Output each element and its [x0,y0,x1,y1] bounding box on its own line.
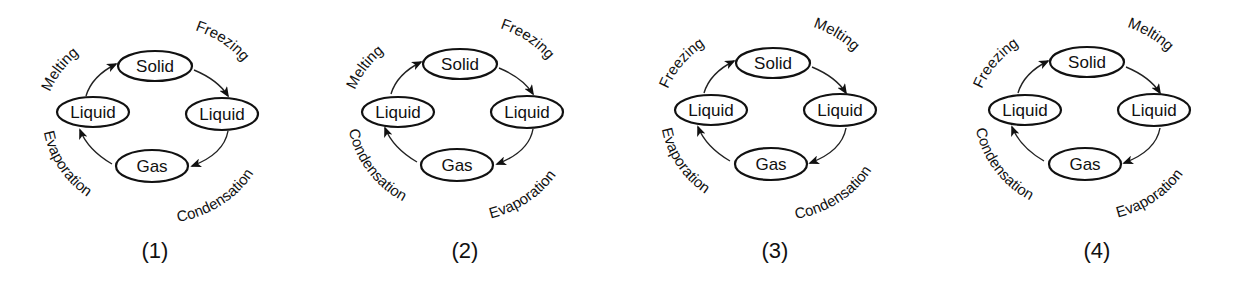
phase-change-diagrams: Solid Liquid Liquid Gas Melting Freezing… [0,0,1240,287]
state-liquid-right: Liquid [491,96,563,128]
process-label-bottom-right: Evaporation [487,166,559,221]
process-label-bottom-left: Condensation [973,126,1037,203]
state-gas: Gas [421,149,493,181]
state-liquid-left-label: Liquid [688,101,733,120]
arrow-liquid-to-gas [192,131,228,166]
process-label-bottom-right: Condensation [793,162,874,222]
arrow-liquid-to-gas [810,128,846,163]
state-liquid-right-label: Liquid [504,103,549,122]
arrow-liquid-to-solid [704,61,734,93]
arrow-solid-to-liquid [1126,67,1160,93]
option-label: (3) [762,238,789,263]
state-gas: Gas [116,150,188,182]
state-solid: Solid [1050,47,1124,77]
diagram-4: Solid Liquid Liquid Gas Freezing Melting… [969,14,1190,263]
state-gas-label: Gas [136,157,167,176]
arrow-gas-to-liquid [385,128,417,162]
arrow-gas-to-liquid [80,130,112,164]
state-solid-label: Solid [441,55,479,74]
arrow-liquid-to-solid [391,62,421,94]
state-solid: Solid [118,51,192,81]
state-solid-label: Solid [136,57,174,76]
process-label-top-left: Freezing [655,34,707,91]
arrow-gas-to-liquid [1012,127,1044,161]
arrow-liquid-to-solid [86,64,116,96]
process-label-top-left: Freezing [969,34,1021,91]
state-liquid-left-label: Liquid [375,103,420,122]
process-label-top-right: Freezing [194,17,254,64]
process-label-bottom-left: Evaporation [659,126,714,197]
state-liquid-left-label: Liquid [70,103,115,122]
state-solid: Solid [423,49,497,79]
state-solid-label: Solid [754,54,792,73]
arrow-liquid-to-gas [1124,128,1160,163]
diagram-1: Solid Liquid Liquid Gas Melting Freezing… [37,17,258,263]
arrow-gas-to-liquid [698,127,730,161]
process-label-top-right: Freezing [499,15,559,62]
arrow-liquid-to-solid [1018,61,1048,93]
state-liquid-right-label: Liquid [199,105,244,124]
state-liquid-right: Liquid [804,94,876,126]
state-liquid-left: Liquid [989,95,1061,125]
state-gas: Gas [735,148,807,180]
option-label: (1) [142,238,169,263]
state-liquid-right: Liquid [1118,94,1190,126]
state-liquid-left: Liquid [57,97,129,127]
process-label-top-left: Melting [37,43,81,93]
state-solid-label: Solid [1068,53,1106,72]
state-liquid-right-label: Liquid [1131,101,1176,120]
process-label-bottom-left: Condensation [346,127,410,204]
arrow-solid-to-liquid [812,67,846,93]
state-gas-label: Gas [755,155,786,174]
process-label-top-right: Melting [1126,14,1178,54]
process-label-top-right: Melting [812,14,864,54]
option-label: (4) [1084,238,1111,263]
state-liquid-right-label: Liquid [817,101,862,120]
process-label-bottom-right: Evaporation [1114,165,1186,220]
state-gas: Gas [1049,148,1121,180]
state-liquid-left: Liquid [362,97,434,127]
state-gas-label: Gas [441,156,472,175]
state-liquid-left: Liquid [675,95,747,125]
arrow-liquid-to-gas [497,129,533,164]
state-liquid-left-label: Liquid [1002,101,1047,120]
state-gas-label: Gas [1069,155,1100,174]
state-liquid-right: Liquid [186,98,258,130]
arrow-solid-to-liquid [194,70,228,96]
diagram-3: Solid Liquid Liquid Gas Freezing Melting… [655,14,876,263]
process-label-top-left: Melting [342,41,386,91]
state-solid: Solid [736,48,810,78]
process-label-bottom-left: Evaporation [41,129,96,200]
arrow-solid-to-liquid [499,68,533,94]
diagram-2: Solid Liquid Liquid Gas Melting Freezing… [342,15,563,263]
option-label: (2) [452,238,479,263]
process-label-bottom-right: Condensation [175,165,256,225]
